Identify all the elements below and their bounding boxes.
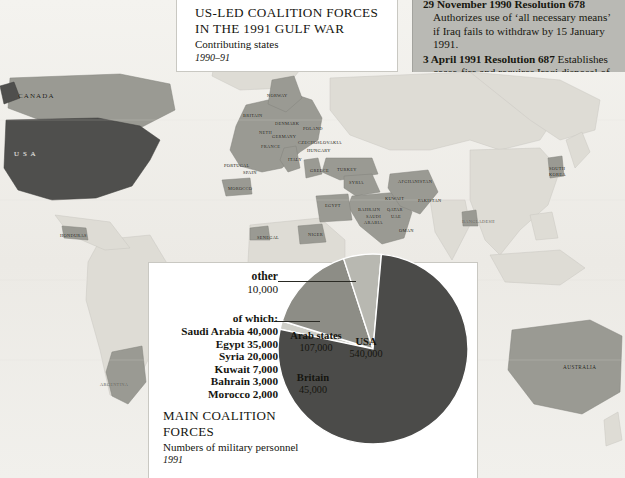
legend-of-which-label: of which: (152, 312, 278, 325)
title-date: 1990–91 (195, 52, 387, 63)
legend-row-value: 7,000 (253, 363, 278, 375)
gulf-war-coalition-infographic: CANADAU S AHONDURASARGENTINANORWAYBRITAI… (0, 0, 625, 478)
legend-row-value: 35,000 (247, 338, 278, 350)
resolution-item: 3 April 1991 Resolution 687 Establishes … (423, 53, 617, 72)
legend-breakdown-rows: Saudi Arabia 40,000Egypt 35,000Syria 20,… (152, 325, 278, 401)
legend-row-country: Syria (219, 350, 247, 362)
legend-row-value: 20,000 (247, 350, 278, 362)
legend-row-country: Saudi Arabia (181, 325, 247, 337)
leader-line-other (278, 281, 356, 282)
legend-row: Morocco 2,000 (152, 388, 278, 401)
legend-row: Egypt 35,000 (152, 338, 278, 351)
legend-row: Saudi Arabia 40,000 (152, 325, 278, 338)
legend-other-value: 10,000 (152, 283, 278, 296)
chart-title-line-2: FORCES (163, 424, 298, 440)
chart-date: 1991 (163, 454, 298, 465)
resolution-item: 29 November 1990 Resolution 678 Authoriz… (423, 0, 617, 52)
legend-row: Syria 20,000 (152, 350, 278, 363)
chart-subtitle: Numbers of military personnel (163, 441, 298, 454)
un-resolutions-panel: 29 November 1990 Resolution 678 Authoriz… (412, 0, 625, 72)
page-title-line-1: US-LED COALITION FORCES (195, 5, 387, 21)
chart-title-line-1: MAIN COALITION (163, 408, 298, 424)
legend-other-label: other (152, 270, 278, 283)
legend-row-country: Egypt (216, 338, 247, 350)
legend-row-country: Bahrain (211, 375, 253, 387)
legend-row-country: Morocco (208, 388, 253, 400)
resolution-heading: 3 April 1991 Resolution 687 (423, 53, 555, 65)
legend-row: Bahrain 3,000 (152, 375, 278, 388)
pie-legend: other 10,000 of which: Saudi Arabia 40,0… (152, 270, 278, 401)
resolution-heading: 29 November 1990 Resolution 678 (423, 0, 585, 10)
title-panel: US-LED COALITION FORCES IN THE 1991 GULF… (176, 0, 398, 72)
legend-row-value: 3,000 (253, 375, 278, 387)
title-subtitle: Contributing states (195, 38, 387, 51)
leader-line-arab-states (274, 321, 320, 322)
legend-row-country: Kuwait (215, 363, 253, 375)
legend-row-value: 40,000 (247, 325, 278, 337)
legend-row-value: 2,000 (253, 388, 278, 400)
resolution-body: Authorizes use of ‘all necessary means’ … (433, 11, 610, 50)
chart-caption: MAIN COALITION FORCES Numbers of militar… (163, 408, 298, 465)
legend-row: Kuwait 7,000 (152, 363, 278, 376)
page-title-line-2: IN THE 1991 GULF WAR (195, 21, 387, 37)
